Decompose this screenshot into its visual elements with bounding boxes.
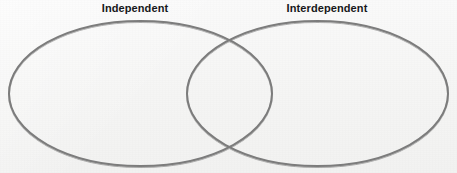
venn-diagram-figure: Independent Interdependent	[0, 0, 457, 173]
interdependent-label: Interdependent	[287, 1, 368, 15]
independent-ellipse	[9, 21, 272, 166]
interdependent-ellipse	[187, 21, 448, 166]
venn-diagram-canvas	[0, 0, 457, 173]
independent-label: Independent	[102, 1, 169, 15]
